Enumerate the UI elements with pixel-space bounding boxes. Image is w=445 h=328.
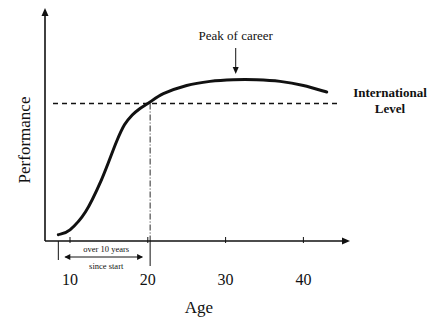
x-tick-label: 30 [218, 271, 234, 288]
y-axis-arrowhead [42, 8, 49, 16]
span-label-since-start: since start [89, 261, 124, 271]
peak-of-career-label: Peak of career [199, 28, 274, 43]
y-axis-label: Performance [15, 97, 34, 184]
span-label-over-10-years: over 10 years [83, 244, 129, 254]
x-tick-label: 40 [295, 271, 311, 288]
x-tick-label: 20 [140, 271, 156, 288]
international-level-label-line: Level [375, 101, 406, 116]
span-arrow-right-head [137, 254, 143, 260]
series-line-performance [58, 80, 326, 235]
span-arrow-left-head [64, 254, 70, 260]
chart: InternationalLevel 10203040 Peak of care… [0, 0, 445, 328]
x-tick-label: 10 [62, 271, 78, 288]
peak-arrow-head [233, 67, 239, 74]
international-level-label-line: International [353, 85, 427, 100]
x-axis-label: Age [185, 298, 213, 317]
international-level-label: InternationalLevel [353, 85, 427, 116]
x-axis-arrowhead [342, 238, 350, 245]
